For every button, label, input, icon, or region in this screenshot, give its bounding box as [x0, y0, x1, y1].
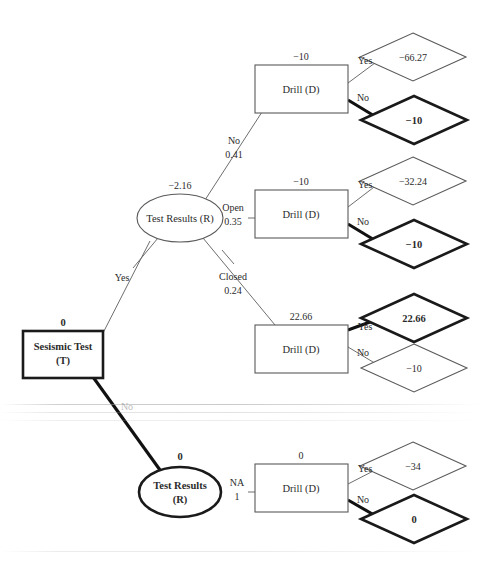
edge-label-drill-open-yes: Yes: [358, 179, 373, 190]
edge-label-drill-no-yes: Yes: [358, 55, 373, 66]
terminal-closed-no-value: −10: [406, 363, 422, 374]
edge-root-yes: [103, 241, 150, 333]
tree-canvas: Sesismic Test (T) 0 Test Results (R) −2.…: [0, 0, 480, 564]
node-root-value: 0: [60, 317, 65, 328]
node-chance-lower-value: 0: [177, 451, 182, 462]
edge-r-closed-stub: [222, 250, 234, 264]
edge-label-drill-closed-yes: Yes: [358, 321, 373, 332]
node-drill-open-value: −10: [293, 176, 309, 187]
node-root-label-line1: Sesismic Test: [34, 341, 93, 352]
edge-label-r-closed: Closed: [219, 271, 247, 282]
node-drill-notest-label: Drill (D): [282, 483, 320, 495]
node-chance-upper-value: −2.16: [168, 180, 191, 191]
node-chance-lower-label-line1: Test Results: [153, 480, 207, 491]
node-drill-open-label: Drill (D): [282, 209, 320, 221]
edge-label-root-yes: Yes: [115, 272, 130, 283]
terminal-closed-yes-value: 22.66: [402, 313, 426, 324]
edge-label-drill-no-no: No: [357, 92, 369, 103]
edge-root-no: [93, 377, 160, 470]
edge-label-r-open-prob: 0.35: [224, 216, 242, 227]
node-chance-lower[interactable]: [139, 467, 221, 517]
node-chance-lower-label-line2: (R): [173, 494, 188, 506]
terminal-no-no-value: −10: [406, 115, 422, 126]
terminal-open-no-value: −10: [406, 239, 422, 250]
edge-label-drill-closed-no: No: [357, 347, 369, 358]
node-drill-notest-value: 0: [299, 450, 304, 461]
edge-label-drill-open-no: No: [357, 216, 369, 227]
terminal-no-yes-value: −66.27: [399, 52, 427, 63]
node-drill-no-label: Drill (D): [282, 84, 320, 96]
edge-label-r-na-prob: 1: [235, 491, 240, 502]
terminal-open-yes-value: −32.24: [399, 176, 427, 187]
edge-label-drill-notest-yes: Yes: [358, 463, 373, 474]
edge-label-r-no-prob: 0.41: [225, 149, 243, 160]
edge-label-r-open: Open: [222, 202, 244, 213]
edge-label-r-closed-prob: 0.24: [224, 285, 242, 296]
node-drill-no-value: −10: [293, 51, 309, 62]
edge-label-r-na: NA: [230, 477, 245, 488]
node-drill-closed-label: Drill (D): [282, 344, 320, 356]
decision-tree-diagram: Sesismic Test (T) 0 Test Results (R) −2.…: [0, 0, 480, 564]
node-drill-closed-value: 22.66: [290, 311, 313, 322]
terminal-notest-no-value: 0: [411, 514, 416, 525]
node-root-label-line2: (T): [56, 355, 71, 367]
terminal-notest-yes-value: −34: [405, 461, 421, 472]
edge-label-root-no: No: [121, 401, 133, 412]
node-chance-upper-label: Test Results (R): [146, 213, 214, 225]
edge-r-yes-stub: [133, 238, 158, 268]
edge-label-r-no: No: [228, 135, 240, 146]
edge-label-drill-notest-no: No: [357, 494, 369, 505]
